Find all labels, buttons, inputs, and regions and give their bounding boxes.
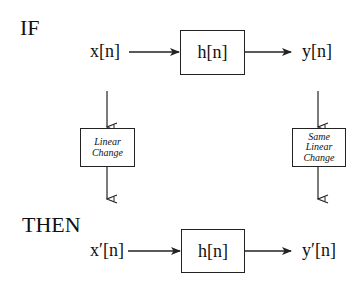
system-box-bottom: h[n] [181, 229, 245, 273]
linear-change-line2: Change [92, 148, 123, 159]
then-heading: THEN [22, 214, 81, 236]
system-label: h[n] [198, 42, 228, 63]
linear-change-box: Linear Change [80, 128, 135, 167]
output-signal-label: y[n] [302, 42, 332, 60]
linear-change-line1: Linear [94, 137, 121, 148]
system-box-top: h[n] [180, 30, 245, 75]
output-prime-signal-label: y′[n] [302, 241, 336, 259]
same-change-line3: Change [303, 153, 334, 164]
input-prime-signal-label: x′[n] [90, 241, 124, 259]
system-label-bottom: h[n] [198, 241, 228, 262]
if-heading: IF [20, 17, 40, 39]
same-linear-change-box: Same Linear Change [292, 128, 346, 167]
input-signal-label: x[n] [90, 42, 120, 60]
